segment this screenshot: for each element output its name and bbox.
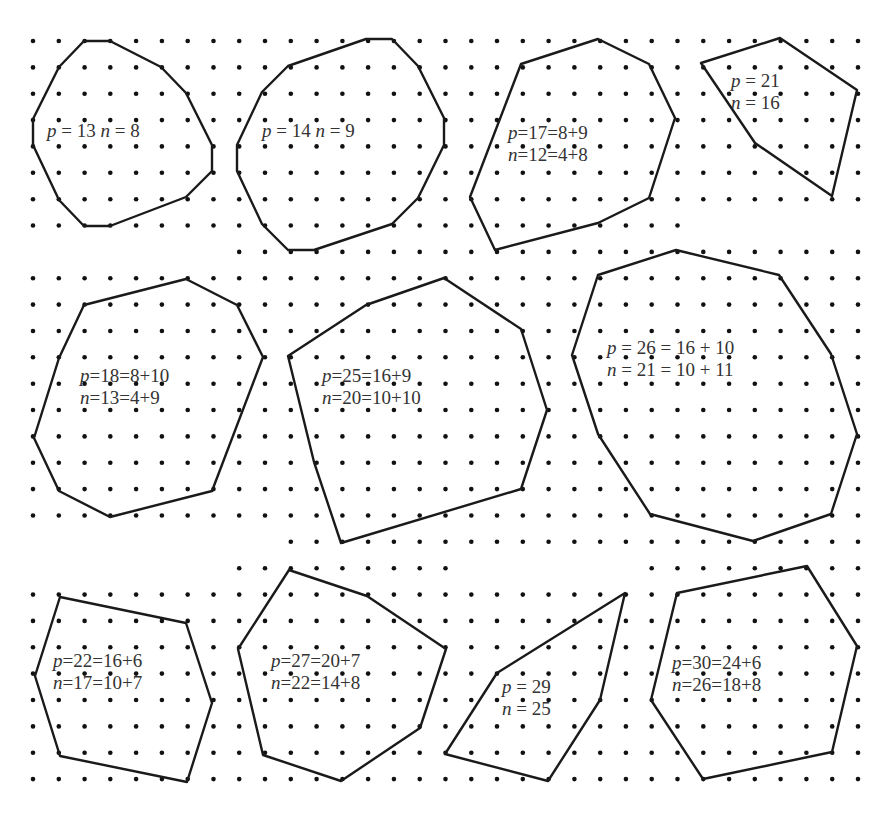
lattice-dot [546,592,551,597]
lattice-dot [314,276,319,281]
lattice-dot [443,434,448,439]
lattice-dot [417,750,422,755]
lattice-dot [31,461,36,466]
lattice-dot [263,329,268,334]
lattice-dot [366,461,371,466]
label-line: p = 21 [731,70,780,92]
lattice-dot [340,566,345,571]
lattice-dot [521,197,526,202]
lattice-dot [778,171,783,176]
lattice-dot [675,171,680,176]
lattice-dot [572,223,577,228]
lattice-dot [289,750,294,755]
lattice-dot [417,566,422,571]
lattice-dot [624,408,629,413]
lattice-dot [31,223,36,228]
lattice-dot [495,381,500,386]
lattice-dot [31,750,36,755]
lattice-dot [160,355,165,360]
lattice-dot [289,619,294,624]
lattice-dot [701,513,706,518]
lattice-dot [314,355,319,360]
lattice-dot [521,434,526,439]
lattice-dot [443,39,448,44]
lattice-dot [804,302,809,307]
lattice-dot [31,171,36,176]
lattice-dot [753,724,758,729]
lattice-dot [521,408,526,413]
lattice-dot [521,540,526,545]
lattice-dot [82,434,87,439]
lattice-dot [727,566,732,571]
lattice-dot [392,671,397,676]
lattice-dot [856,118,861,123]
lattice-dot [649,250,654,255]
lattice-dot [778,381,783,386]
lattice-dot [495,461,500,466]
lattice-dot [495,434,500,439]
lattice-dot [649,566,654,571]
lattice-dot [237,434,242,439]
lattice-dot [649,592,654,597]
lattice-dot [31,408,36,413]
lattice-dot [804,513,809,518]
lattice-dot [392,329,397,334]
lattice-dot [649,461,654,466]
lattice-dot [340,434,345,439]
lattice-dot [856,777,861,782]
lattice-dot [727,777,732,782]
lattice-dot [598,118,603,123]
lattice-dot [856,144,861,149]
lattice-dot [31,91,36,96]
lattice-dot [675,566,680,571]
lattice-dot [443,408,448,413]
lattice-dot [701,592,706,597]
lattice-dot [495,724,500,729]
poly-p13-label: p = 13 n = 8 [47,120,140,142]
lattice-dot [314,408,319,413]
lattice-dot [753,619,758,624]
lattice-dot [289,592,294,597]
lattice-dot [185,434,190,439]
lattice-dot [211,223,216,228]
lattice-dot [82,513,87,518]
lattice-dot [314,302,319,307]
lattice-dot [572,381,577,386]
lattice-dot [649,777,654,782]
lattice-dot [753,434,758,439]
lattice-dot [134,65,139,70]
lattice-dot [289,91,294,96]
lattice-dot [804,65,809,70]
lattice-polygon-figure: p = 13 n = 8p = 14 n = 9p=17=8+9n=12=4+8… [0,0,892,814]
lattice-dot [417,223,422,228]
lattice-dot [263,461,268,466]
lattice-dot [134,724,139,729]
lattice-dot [572,276,577,281]
lattice-dot [314,197,319,202]
lattice-dot [778,434,783,439]
lattice-dot [804,777,809,782]
lattice-dot [57,91,62,96]
lattice-dot [263,65,268,70]
lattice-dot [753,329,758,334]
lattice-dot [624,513,629,518]
lattice-dot [57,302,62,307]
lattice-dot [778,461,783,466]
lattice-dot [598,197,603,202]
lattice-dot [289,381,294,386]
lattice-dot [314,592,319,597]
lattice-dot [443,566,448,571]
lattice-dot [211,777,216,782]
lattice-dot [649,434,654,439]
lattice-dot [340,144,345,149]
lattice-dot [727,461,732,466]
lattice-dot [856,408,861,413]
lattice-dot [469,91,474,96]
lattice-dot [649,171,654,176]
lattice-dot [57,724,62,729]
lattice-dot [185,381,190,386]
lattice-dot [31,619,36,624]
lattice-dot [753,302,758,307]
lattice-dot [804,645,809,650]
label-line: n = 21 = 10 + 11 [607,359,734,381]
